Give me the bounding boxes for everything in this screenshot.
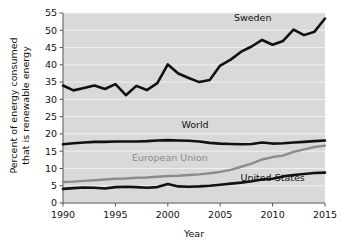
y-axis-tick-label: 45 [45,42,57,53]
x-axis-tick-label: 2000 [156,209,180,220]
y-axis-tick-label: 25 [45,111,57,122]
x-axis-tick-label: 2015 [313,209,337,220]
renewable-energy-line-chart: Percent of energy consumed that is renew… [0,0,342,248]
series-label-world: World [181,119,208,130]
y-axis-tick-label: 35 [45,76,57,87]
series-label-european-union: European Union [132,152,208,163]
y-axis-tick-label: 15 [45,146,57,157]
x-axis-tick-label: 1990 [51,209,75,220]
y-axis-tick-label: 0 [51,197,57,208]
series-label-united-states: United States [240,172,304,183]
y-axis-tick-label: 40 [45,59,57,70]
y-axis-tick-label: 10 [45,163,57,174]
y-axis-tick-label: 30 [45,94,57,105]
plot-canvas: 0510152025303540455055199019952000200520… [0,0,342,248]
y-axis-tick-label: 55 [45,7,57,18]
y-axis-tick-label: 20 [45,128,57,139]
x-axis-tick-label: 2010 [261,209,285,220]
x-axis-tick-label: 2005 [208,209,232,220]
y-axis-tick-label: 5 [51,180,57,191]
x-axis-title: Year [63,228,325,239]
series-label-sweden: Sweden [234,12,272,23]
y-axis-tick-label: 50 [45,25,57,36]
x-axis-tick-label: 1995 [103,209,127,220]
